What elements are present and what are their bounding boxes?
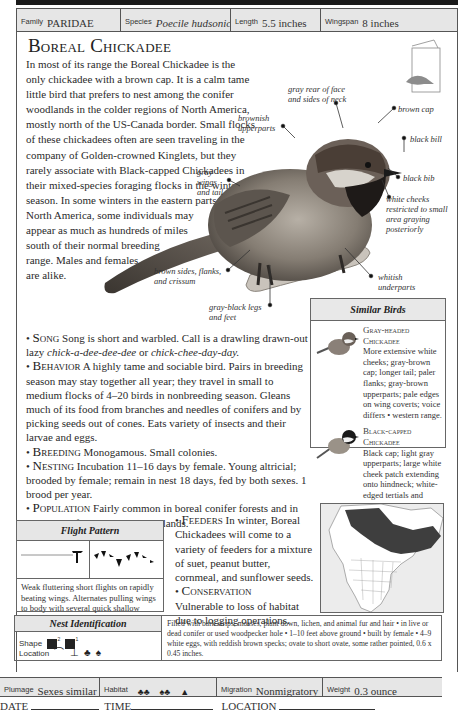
ground-cavity-icon: ⌒: [54, 646, 64, 660]
gray-headed-chickadee-icon: [315, 327, 359, 361]
flight-diagram-glide: [17, 541, 90, 578]
time-field[interactable]: [131, 700, 213, 710]
breeding-section: • Breeding Monogamous. Small colonies.: [26, 445, 311, 459]
nest-location-row: Location ⌒ ⊥ ♣ ♠: [15, 646, 161, 660]
location-label: LOCATION: [222, 700, 277, 712]
nest-description: Filled with bark strips, mosses, plant d…: [162, 615, 442, 661]
bog-habitat-icon: ▲: [180, 687, 189, 696]
length-cell: Length 5.5 inches: [231, 9, 321, 31]
song-call-1: chick-a-dee-dee-dee: [47, 346, 136, 358]
behavior-section: • Behavior A highly tame and sociable bi…: [26, 359, 311, 444]
weight-cell: Weight 0.3 ounce: [323, 678, 442, 696]
wingspan-cell: Wingspan 8 inches: [321, 9, 457, 31]
song-section: • Song Song is short and warbled. Call i…: [26, 331, 311, 359]
plumage-value: Sexes similar: [38, 685, 97, 696]
date-field[interactable]: [31, 700, 99, 710]
mixed-forest-icon: ♠♣: [160, 687, 171, 696]
length-value: 5.5 inches: [262, 17, 307, 29]
migration-label: Migration: [221, 685, 252, 694]
migration-cell: Migration Nonmigratory: [217, 678, 323, 696]
conifer-forest-icon: ♣♣: [138, 687, 150, 696]
family-label: Family: [21, 17, 43, 26]
page-title: Boreal Chickadee: [28, 35, 171, 57]
behavior-heading: Behavior: [33, 358, 81, 373]
wingspan-value: 8 inches: [362, 17, 398, 29]
nesting-section: • Nesting Incubation 11–16 days by femal…: [26, 459, 311, 502]
deciduous-tree-icon: ♠: [96, 646, 101, 660]
callout-gray-rear: gray rear of face and sides of neck: [288, 84, 348, 104]
species-header-bar: Family PARIDAE Species Poecile hudsonica…: [16, 8, 458, 32]
similar-birds-title: Similar Birds: [311, 299, 445, 321]
migration-value: Nonmigratory: [256, 685, 318, 696]
feeders-conservation: • Feeders In winter, Boreal Chickadees w…: [175, 513, 315, 627]
habitat-cell: Habitat ♣♣ ♠♣ ▲: [100, 678, 217, 696]
callout-legs: gray-black legs and feet: [209, 302, 269, 322]
time-label: TIME: [104, 700, 131, 712]
snag-icon: ⊥: [70, 646, 79, 660]
conservation-heading: Conservation: [182, 583, 252, 598]
breeding-heading: Breeding: [33, 444, 81, 459]
callout-brownish-upperparts: brownish upperparts: [238, 113, 282, 133]
callout-brown-cap: brown cap: [398, 104, 434, 114]
callout-brown-sides: brown sides, flanks, and crissum: [154, 266, 228, 286]
song-or: or: [139, 346, 148, 358]
nest-identification-title: Nest Identification: [15, 616, 161, 632]
breeding-text: Monogamous. Small colonies.: [84, 446, 218, 458]
nest-location-label: Location: [19, 649, 49, 658]
nesting-heading: Nesting: [33, 458, 74, 473]
habitat-label: Habitat: [104, 685, 128, 694]
callout-white-cheeks: white cheeks restricted to small area gr…: [386, 194, 454, 234]
family-value: PARIDAE: [47, 17, 94, 29]
flight-diagram-flutter: [90, 541, 164, 578]
flight-glide-icon: [17, 541, 89, 579]
song-heading: Song: [33, 330, 60, 345]
flight-pattern-box: Flight Pattern Weak: [16, 520, 164, 612]
boreal-chickadee-illustration: [100, 135, 420, 315]
similar-bird-item: Gray-headed Chickadee More extensive whi…: [311, 321, 445, 420]
weight-value: 0.3 ounce: [354, 685, 397, 696]
species-value: Poecile hudsonica: [156, 17, 231, 29]
species-footer-bar: Plumage Sexes similar Habitat ♣♣ ♠♣ ▲ Mi…: [0, 677, 442, 697]
top-rule: [16, 0, 458, 5]
observation-log-line: DATE TIME LOCATION: [0, 700, 458, 712]
callout-black-bill: black bill: [410, 134, 442, 144]
plumage-label: Plumage: [4, 685, 34, 694]
family-cell: Family PARIDAE: [17, 9, 121, 31]
black-capped-chickadee-icon: [315, 426, 359, 460]
flight-pattern-title: Flight Pattern: [17, 521, 163, 541]
similar-bird-text: More extensive white cheeks; gray-brown …: [363, 346, 445, 420]
flight-pattern-diagrams: [17, 541, 163, 579]
species-cell: Species Poecile hudsonica: [121, 9, 231, 31]
species-details: • Song Song is short and warbled. Call i…: [26, 331, 311, 530]
similar-birds-box: Similar Birds Gray-headed Chickadee More…: [310, 298, 446, 448]
wingspan-label: Wingspan: [325, 17, 358, 26]
feeders-heading: Feeders: [182, 512, 223, 527]
callout-black-bib: black bib: [403, 173, 434, 183]
feeders-section: • Feeders In winter, Boreal Chickadees w…: [175, 513, 315, 584]
callout-whitish-underparts: whitish underparts: [378, 272, 424, 292]
similar-bird-name: Gray-headed Chickadee: [363, 325, 445, 346]
weight-label: Weight: [327, 685, 350, 694]
shrub-icon: ♣: [84, 646, 91, 660]
nest-shape-row: Shape 2 1: [15, 632, 161, 646]
shape-superscript: 2: [57, 636, 60, 642]
location-field[interactable]: [279, 700, 375, 710]
population-heading: Population: [33, 500, 91, 515]
north-america-range-map: [321, 504, 444, 613]
species-label: Species: [125, 17, 152, 26]
date-label: DATE: [0, 700, 28, 712]
flight-flutter-icon: [90, 541, 164, 579]
plumage-cell: Plumage Sexes similar: [0, 678, 100, 696]
callout-gray-wings: gray wings and tail: [197, 167, 231, 197]
song-call-2: chick-chee-day-day.: [151, 346, 239, 358]
length-label: Length: [235, 17, 258, 26]
nest-identification-box: Nest Identification Shape 2 1 Location ⌒…: [14, 615, 162, 661]
field-guide-bird-icon: [404, 38, 448, 94]
range-map: [320, 503, 444, 613]
shape-superscript: 1: [75, 636, 78, 642]
similar-bird-name: Black-capped Chickadee: [363, 426, 445, 447]
